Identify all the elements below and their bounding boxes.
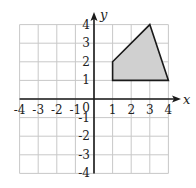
svg-text:-4: -4 [14, 103, 26, 117]
svg-text:-3: -3 [32, 103, 44, 117]
axes [20, 12, 181, 173]
svg-text:0: 0 [82, 101, 90, 115]
shaded-quadrilateral [113, 25, 169, 81]
svg-text:-2: -2 [51, 103, 63, 117]
svg-text:-4: -4 [78, 166, 90, 180]
svg-text:1: 1 [109, 103, 117, 117]
x-axis-label: x [183, 92, 191, 107]
svg-text:-2: -2 [78, 129, 90, 143]
svg-text:4: 4 [165, 103, 173, 117]
svg-text:-3: -3 [78, 148, 90, 162]
coordinate-plane: -4-3-2-112344321-1-2-3-40 x y [0, 0, 196, 188]
svg-text:2: 2 [82, 55, 90, 69]
svg-text:1: 1 [82, 73, 90, 87]
svg-text:3: 3 [146, 103, 154, 117]
svg-text:3: 3 [82, 36, 90, 50]
y-axis-label: y [99, 7, 108, 22]
svg-text:2: 2 [127, 103, 135, 117]
svg-text:4: 4 [82, 18, 90, 32]
